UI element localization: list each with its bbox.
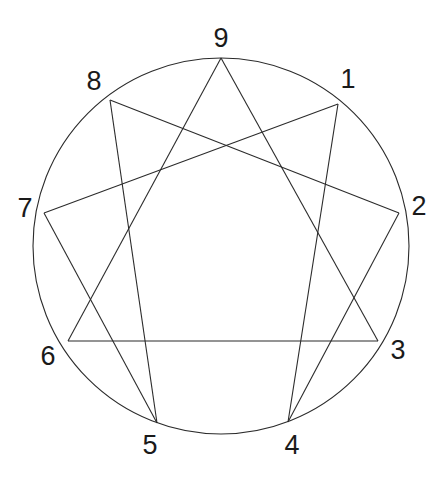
enneagram-hexad-lines [44,100,399,423]
enneagram-edge-6-9 [68,58,221,341]
enneagram-triangle-lines [68,58,378,341]
point-label-5: 5 [142,432,157,459]
enneagram-edge-8-5 [110,100,157,423]
enneagram-diagram: 1 2 3 4 5 6 7 8 9 [0,0,439,480]
point-label-3: 3 [390,337,405,364]
enneagram-edge-9-3 [221,58,378,341]
enneagram-edge-7-1 [44,104,338,213]
point-label-9: 9 [213,25,228,52]
enneagram-edge-5-7 [44,213,157,423]
enneagram-outer-circle [33,58,409,434]
enneagram-canvas [0,0,439,480]
point-label-6: 6 [40,343,55,370]
point-label-1: 1 [340,66,355,93]
point-label-8: 8 [86,68,101,95]
point-label-7: 7 [17,195,32,222]
point-label-2: 2 [411,193,426,220]
enneagram-edge-2-8 [110,100,399,213]
point-label-4: 4 [284,432,299,459]
